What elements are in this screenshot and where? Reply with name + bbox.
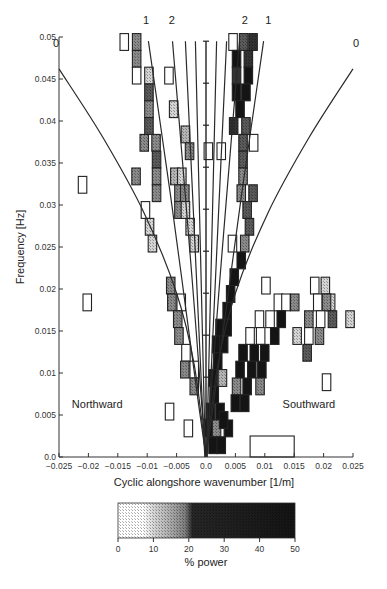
spectral-cell	[271, 328, 280, 345]
spectral-cell	[232, 84, 241, 101]
x-tick-label: −0.005	[163, 461, 190, 471]
spectral-cell	[229, 34, 238, 51]
spectral-cell	[232, 50, 241, 67]
y-tick-label: 0.01	[39, 368, 56, 378]
spectral-cell	[258, 361, 267, 378]
colorbar-tick-label: 50	[290, 544, 300, 554]
spectral-cell	[246, 328, 255, 345]
x-tick-label: 0.025	[342, 461, 364, 471]
y-tick-label: 0.045	[35, 74, 57, 84]
x-tick-label: 0.02	[315, 461, 332, 471]
y-axis-label: Frequency [Hz]	[14, 210, 26, 285]
colorbar-label: % power	[185, 556, 228, 568]
spectral-cell	[231, 395, 240, 412]
spectral-cell	[209, 437, 218, 454]
colorbar-tick-label: 10	[149, 544, 159, 554]
spectral-cell	[266, 311, 275, 328]
colorbar-tick-label: 30	[219, 544, 229, 554]
spectral-cell	[311, 277, 320, 294]
spectral-cell	[261, 344, 270, 361]
spectral-cell	[182, 344, 191, 361]
spectral-cell	[256, 328, 265, 345]
spectral-cell	[236, 361, 245, 378]
spectral-cell	[250, 344, 259, 361]
spectral-cell	[78, 176, 87, 193]
spectral-cell	[282, 294, 291, 311]
spectral-cell	[239, 344, 248, 361]
colorbar-legend: 01020304050 % power	[116, 503, 300, 568]
x-axis-label: Cyclic alongshore wavenumber [1/m]	[114, 476, 294, 488]
spectral-cell	[243, 378, 252, 395]
x-tick-label: 0.01	[257, 461, 274, 471]
spectral-cell	[165, 403, 174, 420]
spectral-cell	[219, 412, 228, 429]
y-tick-label: 0.035	[35, 158, 57, 168]
mode-label: 1	[265, 14, 271, 26]
x-tick-label: −0.025	[46, 461, 73, 471]
y-tick-label: 0.015	[35, 326, 57, 336]
spectral-cell	[165, 67, 174, 84]
colorbar-ticks: 01020304050	[116, 538, 300, 554]
mode-label: 2	[169, 14, 175, 26]
spectral-cell	[316, 311, 325, 328]
spectral-cell	[244, 67, 253, 84]
y-tick-label: 0.02	[39, 284, 56, 294]
spectral-cell	[120, 34, 129, 51]
mode-label: 0	[353, 37, 359, 49]
colorbar-tick-label: 0	[116, 544, 121, 554]
spectral-cell	[237, 252, 246, 269]
mode-label: 1	[143, 14, 149, 26]
spectral-cell	[322, 374, 331, 391]
spectral-cell	[249, 134, 258, 151]
spectral-cell	[255, 311, 264, 328]
spectral-cell	[242, 84, 251, 101]
colorbar-tick-label: 40	[255, 544, 265, 554]
spectral-cell	[262, 277, 271, 294]
spectral-power-cells	[78, 34, 354, 457]
x-tick-label: −0.02	[78, 461, 100, 471]
mode-label: 2	[242, 14, 248, 26]
x-tick-label: −0.015	[105, 461, 132, 471]
x-tick-label: 0.0	[200, 461, 212, 471]
mode-label: 0	[53, 37, 59, 49]
spectral-cell	[184, 420, 193, 437]
region-label: Northward	[72, 398, 123, 410]
wavenumber-frequency-spectrum-chart: −0.025−0.02−0.015−0.01−0.0050.00.0050.01…	[0, 0, 387, 589]
spectral-cell	[83, 294, 92, 311]
spectral-cell	[241, 395, 250, 412]
spectral-cell	[277, 311, 286, 328]
y-tick-label: 0.03	[39, 200, 56, 210]
x-tick-label: −0.01	[136, 461, 158, 471]
x-tick-label: 0.015	[284, 461, 306, 471]
y-tick-label: 0.025	[35, 242, 57, 252]
spectral-cell	[314, 294, 323, 311]
spectral-cell	[132, 67, 141, 84]
region-label: Southward	[283, 398, 336, 410]
y-tick-label: 0.005	[35, 410, 57, 420]
spectral-cell	[217, 437, 226, 454]
colorbar-tick-label: 20	[184, 544, 194, 554]
spectral-cell	[305, 328, 314, 345]
y-tick-label: 0.04	[39, 116, 56, 126]
spectral-cell-wide	[250, 436, 294, 457]
spectral-cell	[248, 361, 257, 378]
x-tick-label: 0.005	[225, 461, 247, 471]
colorbar-gradient	[118, 503, 295, 538]
y-tick-label: 0.0	[44, 452, 56, 462]
spectral-cell	[236, 101, 245, 118]
